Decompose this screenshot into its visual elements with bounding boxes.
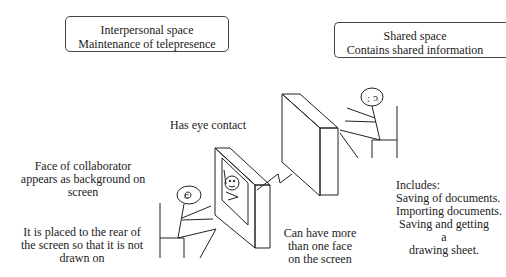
- svg-text:; ͻ: ; ͻ: [367, 93, 378, 103]
- connection-zigzag-icon: [257, 174, 292, 190]
- front-screen-icon: [215, 148, 270, 248]
- svg-text:c: c: [184, 191, 189, 201]
- back-screen-icon: [282, 94, 338, 196]
